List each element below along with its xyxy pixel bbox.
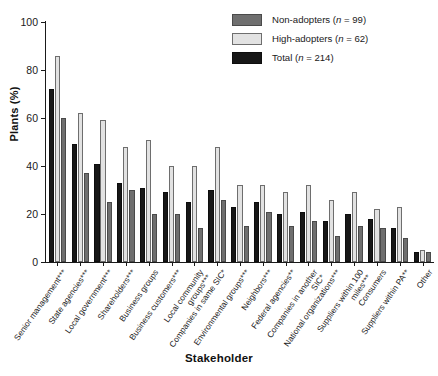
bar [335,236,340,262]
bar [72,144,77,262]
x-tick-mark [377,262,378,266]
bar [414,252,419,262]
bar [123,147,128,262]
x-tick-mark [400,262,401,266]
bar [152,214,157,262]
bar [129,190,134,262]
legend-label: Non-adopters (n = 99) [272,14,366,25]
x-tick-mark [263,262,264,266]
x-tick-mark [331,262,332,266]
bar [237,185,242,262]
bar [231,207,236,262]
legend-swatch [232,33,262,45]
legend-swatch [232,52,262,64]
legend-label: Total (n = 214) [272,52,334,63]
bar [345,214,350,262]
bar [208,190,213,262]
legend-item: High-adopters (n = 62) [232,29,368,48]
x-tick-mark [217,262,218,266]
y-tick-mark [41,22,45,23]
bar [100,120,105,262]
x-tick-mark [57,262,58,266]
bar [221,200,226,262]
bar [94,164,99,262]
x-tick-mark [194,262,195,266]
legend-item: Total (n = 214) [232,48,368,67]
y-tick-label: 80 [12,65,38,75]
x-tick-mark [126,262,127,266]
bar [323,221,328,262]
bar [391,228,396,262]
bar [61,118,66,262]
x-tick-mark [286,262,287,266]
legend-label: High-adopters (n = 62) [272,33,368,44]
bar [358,226,363,262]
y-tick-label: 100 [12,17,38,27]
bar [163,192,168,262]
x-axis-title: Stakeholder [0,352,438,364]
x-tick-mark [149,262,150,266]
bar [186,202,191,262]
bar [300,212,305,262]
bar [380,228,385,262]
bar-chart: Plants (%) 020406080100 Senior managemen… [0,0,438,376]
legend-item: Non-adopters (n = 99) [232,10,368,29]
bar [374,209,379,262]
x-tick-mark [103,262,104,266]
bar [260,185,265,262]
y-tick-mark [41,70,45,71]
legend: Non-adopters (n = 99)High-adopters (n = … [232,10,368,67]
bar [175,214,180,262]
x-tick-mark [240,262,241,266]
x-tick-mark [308,262,309,266]
y-tick-mark [41,166,45,167]
bar [146,140,151,262]
bar [244,226,249,262]
bar [84,173,89,262]
x-tick-mark [172,262,173,266]
y-tick-label: 60 [12,113,38,123]
bar [49,89,54,262]
x-tick-mark [80,262,81,266]
bar [140,188,145,262]
bar [289,226,294,262]
bar [266,212,271,262]
bar [198,228,203,262]
bar [277,214,282,262]
bar [306,185,311,262]
bar [352,192,357,262]
bar [420,250,425,262]
y-tick-mark [41,214,45,215]
bar [169,166,174,262]
y-tick-label: 0 [12,257,38,267]
bar [312,221,317,262]
bar [78,113,83,262]
bar [254,202,259,262]
bar [55,56,60,262]
x-tick-mark [354,262,355,266]
bar [368,219,373,262]
legend-swatch [232,14,262,26]
bar [117,183,122,262]
bar [107,202,112,262]
y-tick-mark [41,118,45,119]
y-tick-label: 40 [12,161,38,171]
bar [192,166,197,262]
bar [426,252,431,262]
bar [329,200,334,262]
y-tick-mark [41,262,45,263]
y-tick-label: 20 [12,209,38,219]
bar [283,192,288,262]
x-tick-mark [423,262,424,266]
bar [215,147,220,262]
bar [403,238,408,262]
bar [397,207,402,262]
